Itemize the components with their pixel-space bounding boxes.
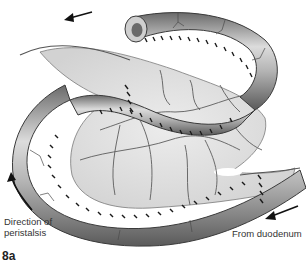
direction-label-line1: Direction of bbox=[4, 216, 52, 227]
arrow-left-icon bbox=[64, 12, 92, 22]
direction-of-peristalsis-label: Direction of peristalsis bbox=[4, 216, 52, 238]
direction-label-line2: peristalsis bbox=[4, 227, 52, 238]
figure-label: 8a bbox=[2, 251, 15, 262]
from-duodenum-label: From duodenum bbox=[232, 228, 302, 239]
